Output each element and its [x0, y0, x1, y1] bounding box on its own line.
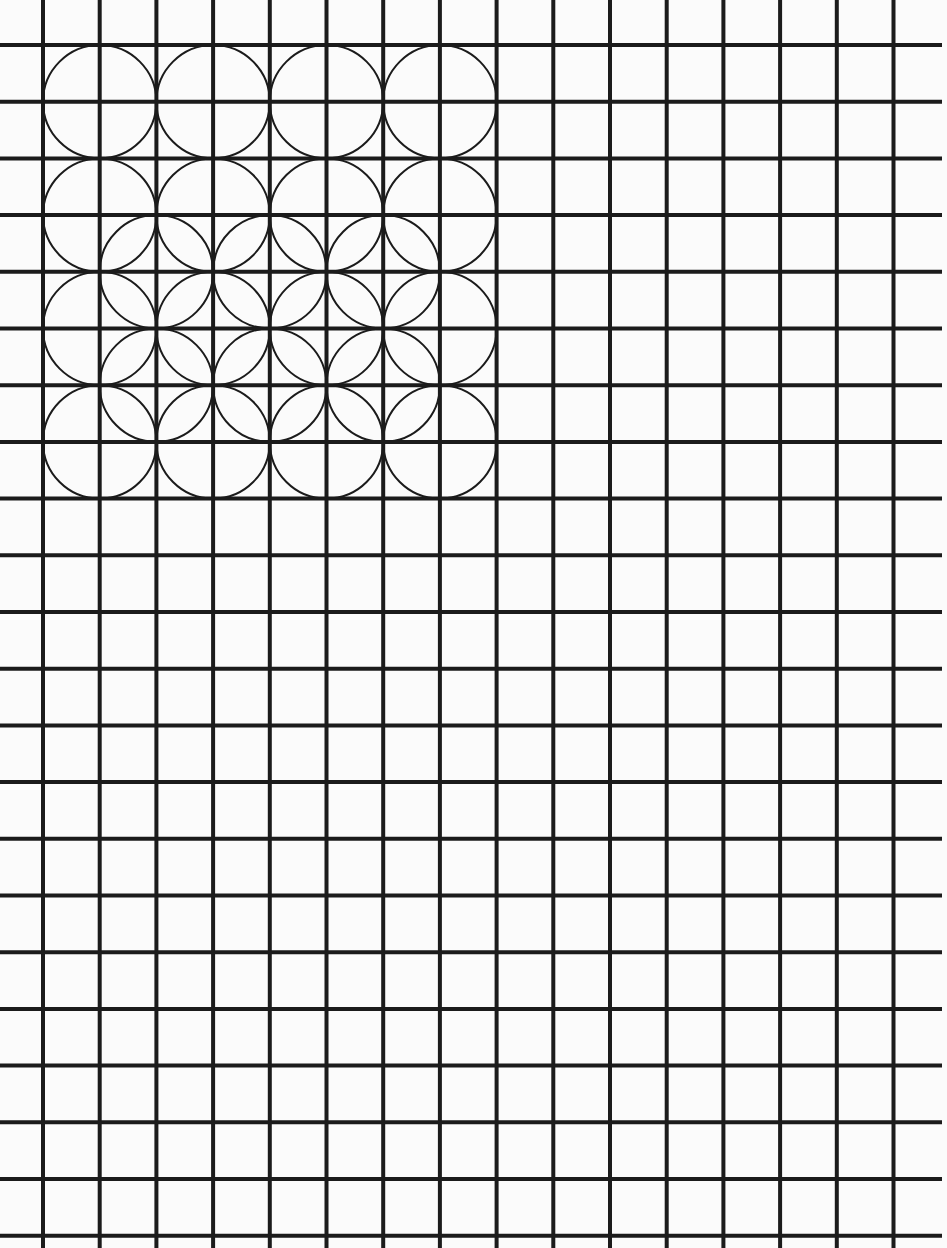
- paper-background: [0, 0, 947, 1248]
- grid-paper-sheet: [0, 0, 947, 1248]
- grid-pattern-canvas: [0, 0, 947, 1248]
